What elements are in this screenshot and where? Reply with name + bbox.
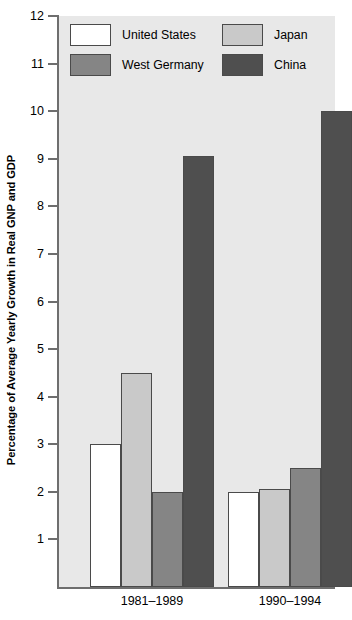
legend-label: China xyxy=(274,58,306,72)
y-axis-tick-label: 9 xyxy=(4,152,44,166)
y-axis-tick xyxy=(48,63,59,65)
y-axis-tick xyxy=(48,538,59,540)
chart-legend: United StatesWest GermanyJapanChina xyxy=(70,24,326,80)
x-axis-line xyxy=(57,587,335,589)
y-axis-tick xyxy=(48,491,59,493)
legend-label: United States xyxy=(122,28,196,42)
legend-label: Japan xyxy=(274,28,308,42)
y-axis-line xyxy=(57,16,59,589)
legend-swatch xyxy=(222,54,263,76)
legend-item: China xyxy=(222,54,306,76)
bar xyxy=(228,492,259,587)
bar xyxy=(259,489,290,587)
y-axis-tick xyxy=(48,158,59,160)
y-axis-tick xyxy=(48,15,59,17)
legend-label: West Germany xyxy=(122,58,204,72)
bar xyxy=(121,373,152,587)
y-axis-tick xyxy=(48,348,59,350)
bar xyxy=(152,492,183,587)
y-axis-tick-label: 5 xyxy=(4,342,44,356)
y-axis-tick-label: 11 xyxy=(4,57,44,71)
legend-swatch xyxy=(70,54,111,76)
y-axis-tick-label: 6 xyxy=(4,295,44,309)
y-axis-tick-label: 4 xyxy=(4,390,44,404)
y-axis-tick-label: 12 xyxy=(4,9,44,23)
legend-item: United States xyxy=(70,24,196,46)
legend-item: Japan xyxy=(222,24,308,46)
y-axis-tick xyxy=(48,301,59,303)
y-axis-title: Percentage of Average Yearly Growth in R… xyxy=(0,0,22,620)
legend-item: West Germany xyxy=(70,54,204,76)
y-axis-tick-label: 7 xyxy=(4,247,44,261)
legend-swatch xyxy=(222,24,263,46)
bar xyxy=(183,156,214,587)
bar xyxy=(290,468,321,587)
y-axis-tick xyxy=(48,205,59,207)
x-axis-tick-label: 1990–1994 xyxy=(259,594,322,608)
y-axis-tick-label: 2 xyxy=(4,485,44,499)
y-axis-tick-label: 3 xyxy=(4,437,44,451)
y-axis-tick-label: 10 xyxy=(4,104,44,118)
legend-swatch xyxy=(70,24,111,46)
bar xyxy=(90,444,121,587)
x-axis-tick-label: 1981–1989 xyxy=(121,594,184,608)
y-axis-tick-label: 8 xyxy=(4,199,44,213)
y-axis-tick xyxy=(48,253,59,255)
y-axis-tick xyxy=(48,443,59,445)
bar xyxy=(321,111,352,587)
y-axis-tick xyxy=(48,110,59,112)
y-axis-tick-label: 1 xyxy=(4,532,44,546)
y-axis-tick xyxy=(48,396,59,398)
